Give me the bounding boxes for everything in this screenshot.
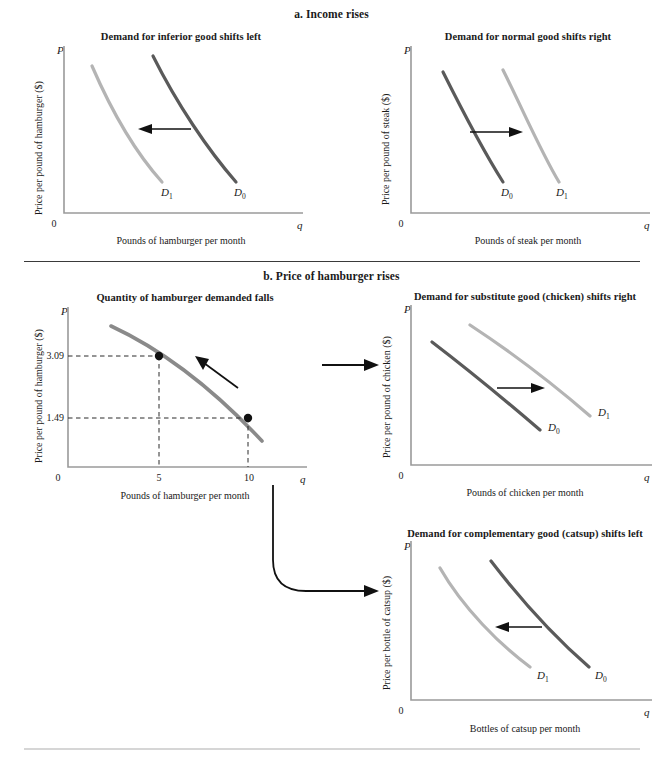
curve-d0-catsup bbox=[491, 561, 589, 667]
axes-catsup bbox=[411, 541, 652, 700]
shift-arrow-left-catsup bbox=[495, 622, 542, 632]
plot-catsup bbox=[0, 0, 663, 759]
footer-rule bbox=[24, 748, 640, 750]
curve-d1-catsup bbox=[440, 568, 530, 667]
figure-root: a. Income rises Demand for inferior good… bbox=[0, 0, 663, 759]
